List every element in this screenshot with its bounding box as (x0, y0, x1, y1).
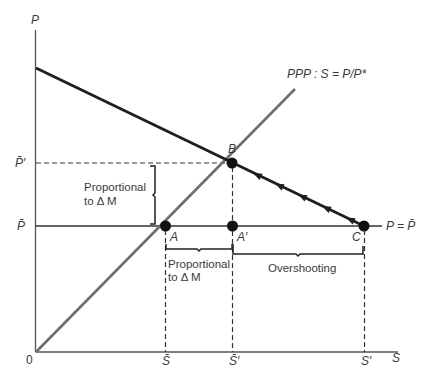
p-bar-label: P̄ (17, 219, 25, 233)
vertical-brace (150, 166, 155, 224)
p-bar-prime-label: P̄′ (15, 156, 26, 170)
vertical-brace-text-1: Proportional (84, 181, 146, 193)
label-c: C (352, 230, 361, 244)
horizontal-brace-text-2: to Δ M (168, 271, 201, 283)
origin-label: 0 (26, 353, 33, 367)
label-a-prime: A′ (236, 230, 248, 244)
label-a: A (169, 230, 178, 244)
s-prime-label: S′ (361, 354, 372, 368)
overshooting-text: Overshooting (268, 262, 336, 274)
horizontal-brace-overshooting (233, 244, 363, 256)
overshooting-diagram: P S 0 PPP : S = P/P* P = P̄ A A′ B C P̄′… (0, 0, 423, 380)
price-level-label: P = P̄ (386, 219, 415, 233)
s-bar-label: S̄ (162, 354, 170, 368)
label-b: B (228, 142, 236, 156)
vertical-brace-text-2: to Δ M (84, 195, 117, 207)
point-b (227, 158, 238, 169)
horizontal-brace-text-1: Proportional (168, 258, 230, 270)
ppp-label: PPP : S = P/P* (287, 67, 367, 81)
s-bar-prime-label: S̄′ (229, 354, 240, 368)
horizontal-brace-a (166, 244, 232, 251)
y-axis-label: P (31, 13, 39, 27)
x-axis-label: S (392, 351, 400, 365)
